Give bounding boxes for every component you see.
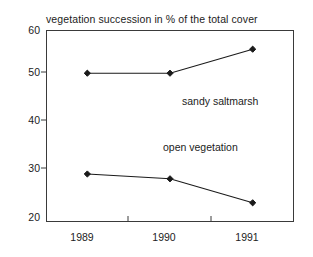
chart-plot-svg xyxy=(0,0,313,257)
series-open-vegetation xyxy=(84,171,256,206)
data-point-marker xyxy=(84,171,90,177)
x-axis-ticks xyxy=(128,216,211,222)
data-point-marker xyxy=(167,176,173,182)
data-point-marker xyxy=(167,70,173,76)
data-point-marker xyxy=(84,70,90,76)
data-point-marker xyxy=(250,200,256,206)
series-sandy-saltmarsh xyxy=(84,46,256,76)
data-point-marker xyxy=(250,46,256,52)
y-axis-ticks xyxy=(41,72,47,168)
data-series-layer xyxy=(84,46,256,206)
chart-container: vegetation succession in % of the total … xyxy=(0,0,313,257)
